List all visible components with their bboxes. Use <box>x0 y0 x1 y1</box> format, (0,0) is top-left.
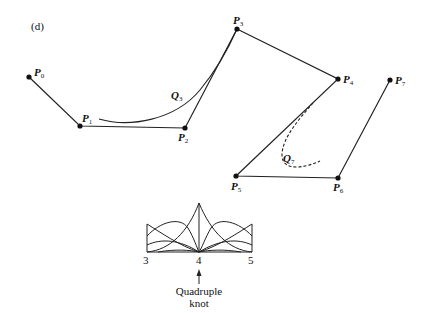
basis-function-plot <box>147 203 252 252</box>
tick-3: 3 <box>143 254 149 266</box>
point-p0 <box>26 74 31 79</box>
label-p7: P7 <box>395 74 406 88</box>
arrow-up-icon <box>197 269 202 284</box>
label-p4: P4 <box>343 73 354 87</box>
point-p5 <box>233 173 238 178</box>
annotation-quadruple: Quadruple <box>176 285 223 297</box>
tick-5: 5 <box>248 254 254 266</box>
b-spline-diagram: (d) P0 P1 P2 P3 P4 P5 P6 P7 Q3 Q7 <box>0 0 422 313</box>
label-p5: P5 <box>231 180 242 194</box>
point-p4 <box>335 76 340 81</box>
label-p6: P6 <box>333 181 344 195</box>
tick-4: 4 <box>196 254 202 266</box>
panel-label: (d) <box>31 20 44 33</box>
control-points <box>26 26 392 180</box>
point-p2 <box>182 125 187 130</box>
label-q7: Q7 <box>283 152 295 166</box>
label-p1: P1 <box>82 112 93 126</box>
label-q3: Q3 <box>171 89 183 103</box>
point-p1 <box>77 123 82 128</box>
curve-q3 <box>99 29 237 122</box>
label-p2: P2 <box>178 131 189 145</box>
label-p0: P0 <box>34 66 45 80</box>
control-polygon <box>29 29 390 178</box>
annotation-knot: knot <box>189 297 209 309</box>
point-p6 <box>335 175 340 180</box>
label-p3: P3 <box>233 14 244 28</box>
point-p7 <box>387 77 392 82</box>
